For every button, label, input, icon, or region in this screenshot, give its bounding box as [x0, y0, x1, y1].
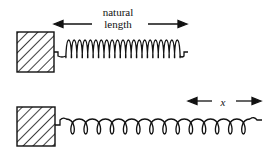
- natural-label: natural: [96, 6, 140, 18]
- bottom-spring: [55, 118, 262, 134]
- x-label: x: [216, 96, 230, 108]
- bottom-wall-block: [17, 107, 55, 146]
- top-spring: [54, 40, 188, 58]
- length-label: length: [96, 18, 140, 30]
- top-wall-block: [17, 32, 54, 72]
